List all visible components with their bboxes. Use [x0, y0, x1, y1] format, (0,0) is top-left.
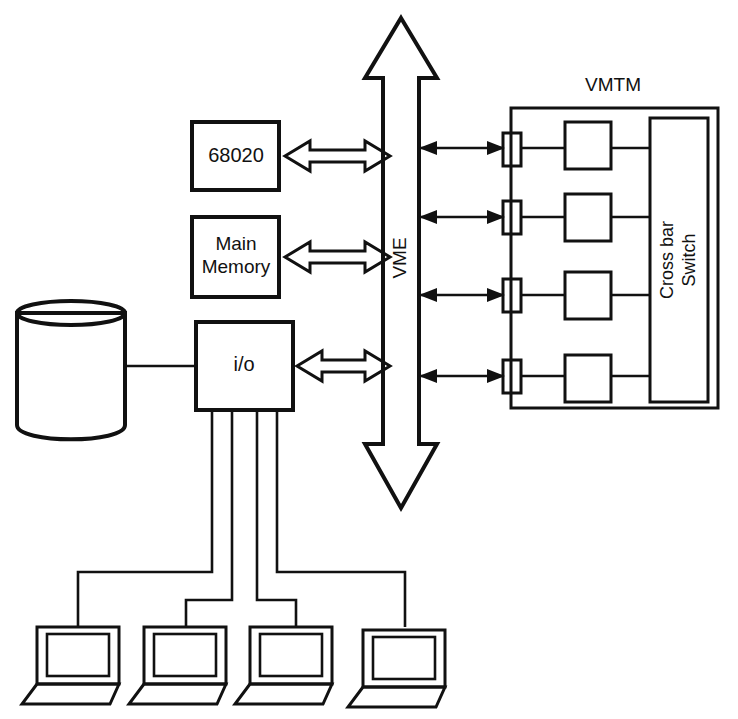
terminal-screen-inner [154, 634, 216, 676]
wire-to-terminal-1 [78, 410, 212, 627]
disk-node [17, 301, 125, 439]
cpu-label: 68020 [208, 144, 264, 166]
vmtm-label: VMTM [585, 74, 641, 95]
terminal-4[interactable] [348, 630, 445, 707]
terminal-2[interactable] [129, 627, 226, 704]
connector-bus-to-vmtm-port-4 [419, 369, 505, 383]
architecture-diagram: VME 68020 Main Memory i/o [0, 0, 738, 719]
terminal-screen-inner [260, 634, 322, 676]
wire-to-terminal-2 [186, 410, 232, 627]
wire-to-terminal-4 [277, 410, 405, 627]
memory-bus-double-arrow [285, 242, 390, 272]
vmtm-row-4 [503, 355, 650, 402]
cpu-node: 68020 [192, 122, 279, 190]
vmtm-module-3 [565, 272, 611, 319]
vmtm-module-1 [565, 122, 611, 169]
vmtm-module-4 [565, 355, 611, 402]
connector-bus-to-vmtm-port-3 [419, 288, 505, 302]
terminal-base [235, 684, 332, 704]
terminal-base [22, 684, 119, 704]
memory-node: Main Memory [192, 217, 279, 297]
connector-bus-to-vmtm-port-2 [419, 210, 505, 224]
vmtm-row-1 [503, 122, 650, 169]
cpu-bus-double-arrow [285, 141, 390, 171]
terminal-1[interactable] [22, 627, 119, 704]
terminal-3[interactable] [235, 627, 332, 704]
crossbar-switch-label-line1: Cross bar [657, 221, 677, 299]
vmtm-node: VMTM Cross bar Switch [503, 74, 718, 408]
vmtm-row-3 [503, 272, 650, 319]
diagram-canvas: VME 68020 Main Memory i/o [0, 0, 738, 719]
vmtm-row-2 [503, 194, 650, 241]
memory-label-line2: Memory [202, 256, 271, 277]
terminal-screen-inner [373, 637, 435, 679]
connector-bus-to-vmtm-port-1 [419, 141, 505, 155]
terminal-screen-inner [47, 634, 109, 676]
io-terminal-wiring [78, 410, 405, 627]
connector-memory-to-bus [285, 242, 390, 272]
terminal-base [348, 687, 445, 707]
bus-vmtm-connectors [419, 141, 505, 383]
connector-io-to-bus [297, 351, 390, 381]
io-bus-double-arrow [297, 351, 390, 381]
connector-cpu-to-bus [285, 141, 390, 171]
terminal-base [129, 684, 226, 704]
crossbar-switch-label-line2: Switch [679, 233, 699, 286]
disk-body [17, 313, 125, 439]
vmtm-module-2 [565, 194, 611, 241]
io-node: i/o [196, 322, 293, 410]
vme-bus: VME [365, 18, 437, 508]
memory-label-line1: Main [215, 233, 256, 254]
io-label: i/o [233, 353, 254, 375]
vme-bus-label: VME [389, 237, 410, 278]
